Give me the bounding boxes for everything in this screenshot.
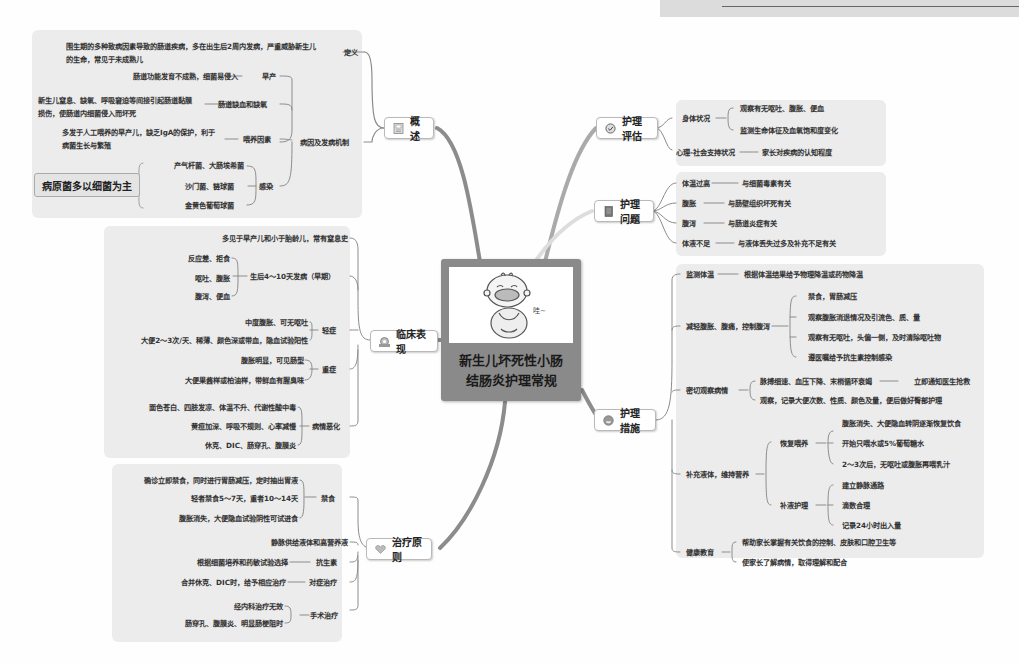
assessment-item: 心理-社会支持状况 (676, 148, 735, 157)
etiology-label: 病因及发病机制 (300, 138, 349, 147)
problem-item: 体温过高 (682, 179, 710, 188)
measure-child: 观察，记录大便次数、性质、颜色及量，便后做好臀部护理 (760, 396, 942, 405)
treatment-child: 确诊立即禁食，同时进行胃肠减压，定时抽出胃液 (100, 476, 298, 485)
pathogen-callout: 病原菌多以细菌为主 (34, 173, 140, 197)
clinical-child: 腹泻、便血 (160, 292, 230, 301)
treatment-item: 静脉供给液体和高营养液 (220, 538, 348, 547)
measure-action: 立即通知医生抢救 (914, 377, 970, 386)
clinical-child: 面色苍白、四肢发凉、体温不升、代谢性酸中毒 (100, 403, 296, 412)
branch-label: 护理措施 (620, 405, 647, 435)
clinical-item: 病情恶化 (312, 422, 340, 431)
heart-icon (375, 544, 386, 555)
measure-child: 遵医嘱给予抗生素控制感染 (808, 353, 892, 362)
measure-item: 监测体温 (686, 270, 714, 279)
branch-treatment[interactable]: 治疗原则 (366, 538, 432, 560)
problem-item: 腹泻 (682, 219, 696, 228)
svg-text:哇~: 哇~ (533, 306, 546, 315)
definition-text: 围生期的多种致病因素导致的肠道疾病，多在出生后2周内发病，严重威胁新生儿的生命，… (66, 40, 316, 66)
treatment-detail: 根据细菌培养和药敏试验选择 (150, 558, 288, 567)
branch-label: 概述 (410, 113, 425, 143)
measure-child: 开始只喂水或5%葡萄糖水 (842, 439, 924, 448)
measure-child: 帮助家长掌握有关饮食的控制、皮肤和口腔卫生等 (742, 538, 896, 547)
branch-label: 护理问题 (620, 196, 645, 226)
measure-detail: 根据体温结果给予物理降温或药物降温 (744, 270, 863, 279)
assessment-detail: 家长对疾病的认知程度 (762, 148, 832, 157)
etiology-item-detail: 多发于人工喂养的早产儿，缺乏IgA的保护，利于病菌生长与繁殖 (62, 126, 222, 152)
problem-item: 腹胀 (682, 199, 696, 208)
problem-detail: 与细菌毒素有关 (742, 179, 791, 188)
problem-item: 体液不足 (682, 239, 710, 248)
clinical-child: 休克、DIC、肠穿孔、腹膜炎 (150, 441, 296, 450)
etiology-item-label: 肠道缺血和缺氧 (218, 100, 267, 109)
branch-problems[interactable]: 护理问题 (594, 200, 654, 222)
treatment-item: 禁食 (321, 494, 335, 503)
measure-item: 补充液体，维持营养 (686, 470, 749, 479)
infection-child: 产气杆菌、大肠埃希菌 (144, 161, 244, 170)
problem-detail: 与肠壁组织坏死有关 (728, 199, 791, 208)
central-title-line2: 结肠炎护理常规 (441, 371, 581, 391)
assessment-child: 监测生命体征及血氧饱和度变化 (740, 126, 838, 135)
central-title: 新生儿坏死性小肠 结肠炎护理常规 (441, 351, 581, 391)
branch-measures[interactable]: 护理措施 (594, 409, 656, 431)
branch-clinical[interactable]: 临床表现 (370, 330, 438, 352)
central-title-line1: 新生儿坏死性小肠 (441, 351, 581, 371)
etiology-item-label: 早产 (262, 72, 276, 81)
treatment-child: 经内科治疗无效 (200, 602, 283, 611)
problem-detail: 与肠道炎症有关 (728, 219, 777, 228)
clinical-child: 腹胀明显，可见肠型 (220, 356, 304, 365)
measure-child: 腹胀消失、大便隐血转阴逐渐恢复饮食 (842, 419, 961, 428)
measure-child: 脉搏细速、血压下降、末梢循环衰竭 (760, 377, 872, 386)
check-circle-icon (605, 123, 616, 134)
clinical-child: 中度腹胀、可无呕吐 (220, 318, 308, 327)
problem-detail: 与液体丢失过多及补充不足有关 (738, 239, 836, 248)
crying-baby-illustration: 哇~ (449, 267, 573, 343)
treatment-child: 腹胀消失，大便隐血试验阴性可试进食 (130, 514, 298, 523)
etiology-item-detail: 新生儿窒息、缺氧、呼吸窘迫等间接引起肠道黏膜损伤，使肠道内细菌侵入而坏死 (38, 94, 198, 120)
measure-child: 观察有无呕吐，头偏一侧，及时清除呕吐物 (808, 333, 941, 342)
measure-child: 建立静脉通路 (842, 481, 884, 490)
clinical-child: 大便果酱样或柏油样，带鲜血有腥臭味 (150, 376, 304, 385)
clinical-item: 多见于早产儿和小于胎龄儿，常有窒息史 (180, 234, 348, 243)
measure-item: 健康教育 (686, 548, 714, 557)
branch-label: 护理评估 (622, 113, 649, 143)
definition-label: 定义 (344, 48, 358, 57)
measure-child: 记录24小时出入量 (842, 521, 901, 530)
treatment-child: 肠穿孔、腹膜炎、明显肠梗阻时 (150, 619, 283, 628)
branch-assessment[interactable]: 护理评估 (596, 117, 658, 139)
treatment-item: 抗生素 (316, 558, 337, 567)
infection-child: 金黄色葡萄球菌 (154, 201, 234, 210)
assessment-child: 观察有无呕吐、腹胀、便血 (740, 104, 824, 113)
clinical-child: 大便2～3次/天、稀薄、颜色深或带血，隐血试验阳性 (100, 336, 308, 345)
document-icon (393, 123, 404, 134)
branch-label: 治疗原则 (392, 534, 423, 564)
clinical-item: 轻症 (322, 326, 336, 335)
clinical-item: 重症 (322, 365, 336, 374)
notebook-icon (603, 206, 614, 217)
branch-label: 临床表现 (396, 326, 429, 356)
measure-child: 禁食，胃肠减压 (808, 292, 857, 301)
assessment-item: 身体状况 (682, 114, 710, 123)
face-icon (603, 415, 614, 426)
measure-group-label: 恢复喂养 (780, 439, 808, 448)
measure-child: 使家长了解病情，取得理解和配合 (742, 558, 847, 567)
clinical-child: 反应差、拒食 (160, 254, 230, 263)
measure-item: 减轻腹胀、腹痛，控制腹泻 (686, 322, 770, 331)
infection-child: 沙门菌、链球菌 (154, 182, 234, 191)
measure-child: 滴数合理 (842, 501, 870, 510)
measure-child: 观察腹胀消退情况及引流色、质、量 (808, 313, 920, 322)
gear-icon (379, 336, 390, 347)
treatment-child: 轻者禁食5～7天，重者10～14天 (150, 494, 298, 503)
treatment-detail: 合并休克、DIC时，给予相应治疗 (130, 578, 286, 587)
etiology-item-label: 喂养因素 (243, 135, 271, 144)
treatment-item: 对症治疗 (309, 578, 337, 587)
treatment-item: 手术治疗 (310, 611, 338, 620)
clinical-child: 呕吐、腹胀 (160, 274, 230, 283)
etiology-item-label: 感染 (259, 182, 273, 191)
measure-group-label: 补液护理 (780, 501, 808, 510)
clinical-item: 生后4～10天发病（早期） (250, 272, 335, 281)
measure-child: 2～3次后，无呕吐或腹胀再喂乳汁 (842, 460, 950, 469)
branch-overview[interactable]: 概述 (384, 117, 434, 139)
central-topic[interactable]: 哇~ 新生儿坏死性小肠 结肠炎护理常规 (441, 259, 581, 401)
etiology-item-detail: 肠道功能发育不成熟，细菌易侵入 (114, 72, 238, 81)
measure-item: 密切观察病情 (686, 386, 728, 395)
